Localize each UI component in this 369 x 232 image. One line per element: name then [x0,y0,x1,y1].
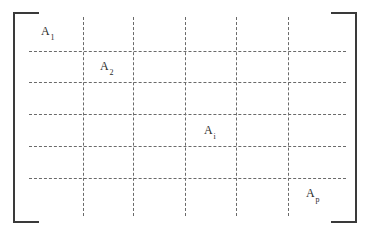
block-label-a1: A1 [41,25,55,37]
block-label-a1-sub: 1 [50,33,55,42]
matrix-right-bracket [331,12,357,223]
block-label-a2-base: A [100,59,109,73]
block-label-ap-base: A [306,186,315,200]
grid-hline-1 [29,51,346,52]
block-label-ai-base: A [204,123,213,137]
block-label-a2-sub: 2 [109,68,114,77]
grid-vline-2 [133,17,134,216]
grid-hline-5 [29,178,346,179]
grid-vline-4 [236,17,237,216]
grid-hline-4 [29,146,346,147]
block-label-ap-sub: p [315,195,320,204]
grid-vline-3 [185,17,186,216]
grid-hline-2 [29,82,346,83]
block-label-a1-base: A [41,24,50,38]
grid-vline-1 [83,17,84,216]
block-label-ap: Ap [306,187,320,199]
block-label-ai-sub: i [213,132,216,141]
grid-hline-3 [29,114,346,115]
block-label-ai: Ai [204,124,216,136]
grid-vline-5 [288,17,289,216]
partitioned-matrix-figure: A1 A2 Ai Ap [0,0,369,232]
block-label-a2: A2 [100,60,114,72]
matrix-left-bracket [13,12,39,223]
